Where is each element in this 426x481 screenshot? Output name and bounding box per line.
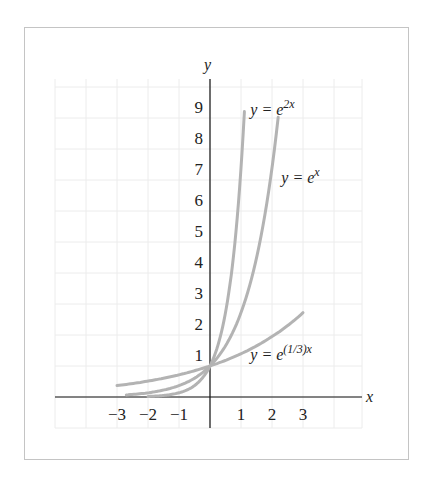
y-tick-label: 7 [195, 160, 204, 179]
tick-labels: −3−2−1123123456789 [108, 98, 307, 424]
y-tick-label: 2 [195, 315, 204, 334]
exponential-chart: x y −3−2−1123123456789 y = e2xy = exy = … [0, 0, 426, 481]
y-tick-label: 8 [195, 129, 204, 148]
x-tick-label: 3 [299, 405, 308, 424]
x-tick-label: 1 [237, 405, 246, 424]
x-tick-label: −1 [170, 405, 188, 424]
grid [55, 79, 362, 428]
curve-labels: y = e2xy = exy = e(1/3)x [248, 97, 320, 364]
y-tick-label: 5 [195, 222, 204, 241]
x-tick-label: −3 [108, 405, 126, 424]
curve-label: y = ex [279, 165, 320, 187]
curve-label: y = e2x [248, 97, 295, 119]
y-axis-label: y [202, 56, 212, 74]
x-tick-label: −2 [139, 405, 157, 424]
y-tick-label: 1 [195, 346, 204, 365]
y-tick-label: 4 [195, 253, 204, 272]
x-tick-label: 2 [268, 405, 277, 424]
y-tick-label: 9 [195, 98, 204, 117]
y-tick-label: 3 [195, 284, 204, 303]
y-tick-label: 6 [195, 191, 204, 210]
x-axis-label: x [365, 388, 373, 405]
